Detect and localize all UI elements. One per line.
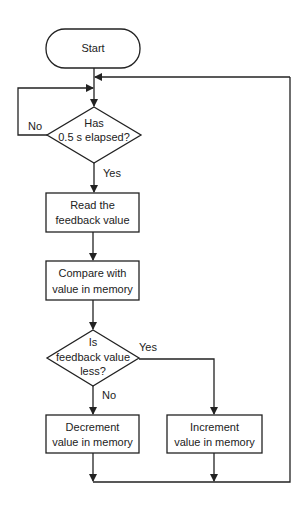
- read-line1: Read the: [46, 198, 139, 212]
- less-decision-line3: less?: [47, 364, 139, 378]
- time-no-label: No: [28, 119, 42, 133]
- increment-line2: value in memory: [167, 435, 262, 449]
- increment-line1: Increment: [167, 420, 262, 434]
- compare-line2: value in memory: [46, 282, 139, 296]
- time-decision-line1: Has: [47, 116, 141, 130]
- time-decision-line2: 0.5 s elapsed?: [47, 130, 141, 144]
- less-decision-line2: feedback value: [47, 350, 139, 364]
- less-no-label: No: [102, 388, 116, 402]
- less-decision-line1: Is: [47, 335, 139, 349]
- compare-line1: Compare with: [46, 266, 139, 280]
- decrement-line2: value in memory: [46, 435, 139, 449]
- start-label: Start: [46, 41, 140, 55]
- read-line2: feedback value: [46, 213, 139, 227]
- less-yes-label: Yes: [139, 340, 157, 354]
- decrement-line1: Decrement: [46, 420, 139, 434]
- time-yes-label: Yes: [103, 166, 121, 180]
